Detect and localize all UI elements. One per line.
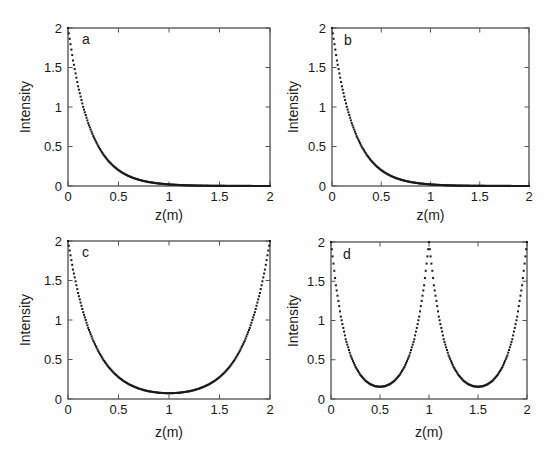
y-tick-label: 1 <box>55 313 62 328</box>
y-tick-label: 0.5 <box>44 352 62 367</box>
x-tick-label: 1 <box>165 402 172 417</box>
subplot-d: 00.511.5200.511.52 Intensity z(m) d <box>279 226 558 453</box>
data-dots <box>330 241 528 388</box>
plot-area-d: 00.511.5200.511.52 <box>279 226 558 453</box>
x-tick-label: 2 <box>266 402 273 417</box>
y-tick-label: 0 <box>55 392 62 407</box>
axes-box <box>68 241 270 399</box>
y-axis-label: Intensity <box>284 28 302 186</box>
y-tick-label: 0 <box>55 179 62 194</box>
y-tick-label: 0.5 <box>307 352 325 367</box>
y-axis-label: Intensity <box>16 28 34 186</box>
x-tick-label: 1.5 <box>210 402 228 417</box>
data-dots <box>331 27 530 187</box>
x-axis-label: z(m) <box>68 206 270 224</box>
plot-area-a: 00.511.5200.511.52 <box>0 0 279 226</box>
panel-label-d: d <box>343 247 351 262</box>
x-tick-label: 2 <box>523 402 530 417</box>
y-axis-label: Intensity <box>284 242 302 400</box>
x-tick-label: 2 <box>525 189 532 204</box>
x-tick-label: 1.5 <box>210 189 228 204</box>
x-tick-label: 0 <box>64 189 71 204</box>
data-dots <box>67 27 271 187</box>
y-tick-label: 1 <box>319 100 326 115</box>
y-tick-label: 1 <box>55 100 62 115</box>
plot-area-c: 00.511.5200.511.52 <box>0 226 279 453</box>
y-tick-label: 1 <box>318 313 325 328</box>
x-axis-label: z(m) <box>332 206 529 224</box>
plot-area-b: 00.511.5200.511.52 <box>279 0 558 226</box>
y-tick-label: 1.5 <box>44 60 62 75</box>
y-tick-label: 0 <box>319 179 326 194</box>
x-tick-label: 1.5 <box>469 402 487 417</box>
x-tick-label: 1 <box>165 189 172 204</box>
x-tick-label: 1.5 <box>471 189 489 204</box>
data-dots <box>67 240 271 394</box>
y-tick-label: 2 <box>55 21 62 36</box>
axes-box <box>332 28 529 186</box>
x-axis-label: z(m) <box>68 423 270 441</box>
x-tick-label: 0.5 <box>372 189 390 204</box>
y-tick-label: 0.5 <box>308 139 326 154</box>
y-tick-label: 2 <box>55 234 62 249</box>
y-tick-label: 2 <box>318 235 325 250</box>
y-axis-label: Intensity <box>16 241 34 399</box>
panel-label-b: b <box>344 33 352 48</box>
y-tick-label: 0 <box>318 392 325 407</box>
x-axis-label: z(m) <box>331 423 527 441</box>
x-tick-label: 0.5 <box>109 402 127 417</box>
panel-label-a: a <box>82 32 90 47</box>
x-tick-label: 0 <box>328 189 335 204</box>
subplot-b: 00.511.5200.511.52 Intensity z(m) b <box>279 0 558 226</box>
x-tick-label: 2 <box>266 189 273 204</box>
x-tick-label: 0 <box>64 402 71 417</box>
x-tick-label: 0.5 <box>109 189 127 204</box>
y-tick-label: 1.5 <box>307 274 325 289</box>
subplot-a: 00.511.5200.511.52 Intensity z(m) a <box>0 0 279 226</box>
y-tick-label: 1.5 <box>44 273 62 288</box>
y-tick-label: 0.5 <box>44 139 62 154</box>
y-tick-label: 2 <box>319 21 326 36</box>
x-tick-label: 0 <box>327 402 334 417</box>
x-tick-label: 1 <box>427 189 434 204</box>
y-tick-label: 1.5 <box>308 60 326 75</box>
x-tick-label: 0.5 <box>371 402 389 417</box>
axes-box <box>68 28 270 186</box>
subplot-c: 00.511.5200.511.52 Intensity z(m) c <box>0 226 279 453</box>
figure-canvas: 00.511.5200.511.52 Intensity z(m) a 00.5… <box>0 0 558 453</box>
x-tick-label: 1 <box>425 402 432 417</box>
panel-label-c: c <box>82 245 89 260</box>
